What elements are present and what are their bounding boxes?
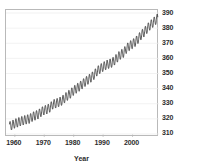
y-axis-tick-label: 390	[162, 9, 186, 16]
x-axis-title: Year	[5, 155, 158, 163]
gridlines	[6, 13, 159, 137]
x-axis-tick-label: 1980	[58, 139, 88, 146]
x-axis-tick-label: 2000	[117, 139, 147, 146]
y-axis-tick-label: 380	[162, 24, 186, 31]
y-axis-tick-label: 340	[162, 84, 186, 91]
plot-area	[5, 9, 158, 136]
y-axis-tick-label: 320	[162, 114, 186, 121]
y-axis-tick-label: 310	[162, 129, 186, 136]
y-axis-tick-label: 370	[162, 39, 186, 46]
co2-chart-figure: 310320330340350360370380390 196019701980…	[0, 0, 197, 168]
co2-data-line	[10, 14, 158, 130]
x-axis-tick-label: 1960	[0, 139, 29, 146]
x-axis-tick-label: 1990	[87, 139, 117, 146]
y-axis-tick-label: 330	[162, 99, 186, 106]
y-axis-tick-label: 350	[162, 69, 186, 76]
y-axis-tick-label: 360	[162, 54, 186, 61]
x-axis-tick-label: 1970	[28, 139, 58, 146]
plot-svg	[6, 10, 159, 137]
